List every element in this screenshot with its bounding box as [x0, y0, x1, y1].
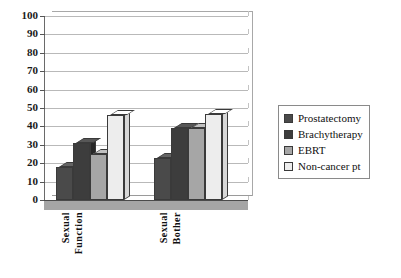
- bar-top-cap: [76, 138, 101, 143]
- gridline-riser: [248, 103, 249, 108]
- y-axis-tick-label: 90: [0, 28, 38, 39]
- bar-top-cap: [208, 109, 233, 114]
- x-axis-category-line: Bother: [171, 212, 182, 244]
- bar-side-face: [222, 110, 228, 200]
- y-axis-tick-label: 0: [0, 194, 38, 205]
- legend-swatch: [284, 146, 293, 155]
- bar-front-face: [154, 158, 171, 200]
- legend-label: EBRT: [298, 144, 325, 156]
- legend-swatch: [284, 130, 293, 139]
- legend-item: Brachytherapy: [284, 126, 363, 142]
- bar-front-face: [73, 143, 90, 200]
- y-axis-tick-label: 10: [0, 176, 38, 187]
- bar-front-face: [171, 128, 188, 200]
- legend-label: Prostatectomy: [298, 112, 361, 124]
- bar: [154, 158, 171, 200]
- x-axis-category-label: SexualFunction: [60, 212, 71, 243]
- bar: [90, 154, 107, 200]
- legend-item: EBRT: [284, 142, 363, 158]
- legend-item: Prostatectomy: [284, 110, 363, 126]
- bar: [188, 128, 205, 200]
- bar-front-face: [205, 114, 222, 200]
- legend-swatch: [284, 114, 293, 123]
- gridline-riser: [248, 177, 249, 182]
- chart-legend: ProstatectomyBrachytherapyEBRTNon-cancer…: [278, 105, 370, 179]
- y-axis-tick-label: 80: [0, 47, 38, 58]
- x-axis-category-line: Sexual: [158, 212, 169, 243]
- gridline-riser: [248, 140, 249, 145]
- x-axis-category-line: Function: [73, 212, 84, 254]
- legend-label: Brachytherapy: [298, 128, 363, 140]
- gridline-riser: [248, 85, 249, 90]
- bars-layer: [44, 16, 248, 200]
- gridline-riser: [248, 48, 249, 53]
- bar-side-face: [124, 112, 130, 200]
- y-axis-tick-label: 50: [0, 102, 38, 113]
- y-axis-tick-label: 100: [0, 10, 38, 21]
- bar-front-face: [107, 115, 124, 200]
- legend-label: Non-cancer pt: [298, 160, 361, 172]
- legend-item: Non-cancer pt: [284, 158, 363, 174]
- bar-front-face: [56, 167, 73, 200]
- bar-front-face: [188, 128, 205, 200]
- bar: [107, 115, 124, 200]
- y-axis-tick-label: 60: [0, 84, 38, 95]
- legend-swatch: [284, 162, 293, 171]
- plot-floor: [44, 200, 248, 210]
- bar: [205, 114, 222, 200]
- x-axis-category-label: SexualBother: [158, 212, 169, 243]
- y-axis-tick-label: 20: [0, 157, 38, 168]
- gridline-riser: [248, 121, 249, 126]
- x-axis-category-line: Sexual: [60, 212, 71, 243]
- y-axis-tick-label: 30: [0, 139, 38, 150]
- bar: [73, 143, 90, 200]
- bar: [171, 128, 188, 200]
- bar-front-face: [90, 154, 107, 200]
- y-axis-tick-label: 70: [0, 65, 38, 76]
- bar-top-cap: [110, 110, 135, 115]
- bar: [56, 167, 73, 200]
- gridline-riser: [248, 66, 249, 71]
- gridline-riser: [248, 158, 249, 163]
- y-axis-tick-label: 40: [0, 120, 38, 131]
- bar-chart-figure: 1009080706050403020100 SexualFunctionSex…: [0, 0, 401, 278]
- gridline-riser: [248, 29, 249, 34]
- gridline-riser: [248, 11, 249, 16]
